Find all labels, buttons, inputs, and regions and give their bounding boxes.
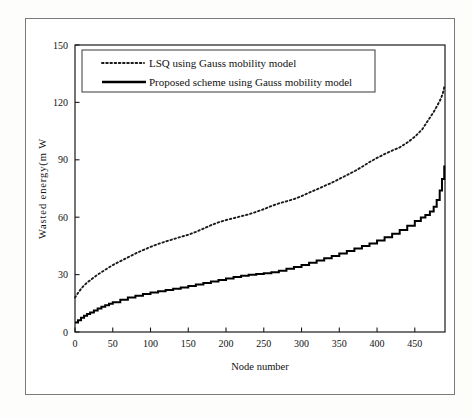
chart-canvas: 0501001502002503003504004500306090120150… xyxy=(0,0,472,419)
data-series xyxy=(75,87,444,322)
x-tick-label: 300 xyxy=(294,338,309,349)
series-line-1 xyxy=(75,87,444,297)
y-axis-title: Wasted energy(m W xyxy=(37,138,49,239)
x-tick-label: 250 xyxy=(256,338,271,349)
x-axis-title: Node number xyxy=(231,361,289,372)
legend-label-1: LSQ using Gauss mobility model xyxy=(149,57,296,69)
x-tick-label: 100 xyxy=(143,338,158,349)
legend-label-2: Proposed scheme using Gauss mobility mod… xyxy=(149,76,352,88)
y-tick-label: 0 xyxy=(63,327,68,338)
y-tick-label: 150 xyxy=(53,40,68,51)
x-tick-label: 450 xyxy=(407,338,422,349)
x-tick-label: 350 xyxy=(332,338,347,349)
x-tick-label: 50 xyxy=(108,338,118,349)
x-tick-label: 150 xyxy=(181,338,196,349)
x-tick-label: 400 xyxy=(370,338,385,349)
x-tick-label: 0 xyxy=(73,338,78,349)
figure-root: 0501001502002503003504004500306090120150… xyxy=(0,0,472,419)
y-tick-label: 60 xyxy=(58,212,68,223)
chart-legend: LSQ using Gauss mobility modelProposed s… xyxy=(82,50,375,92)
series-line-2 xyxy=(75,166,444,323)
y-tick-label: 120 xyxy=(53,97,68,108)
y-tick-label: 90 xyxy=(58,154,68,165)
x-tick-label: 200 xyxy=(219,338,234,349)
y-tick-label: 30 xyxy=(58,269,68,280)
